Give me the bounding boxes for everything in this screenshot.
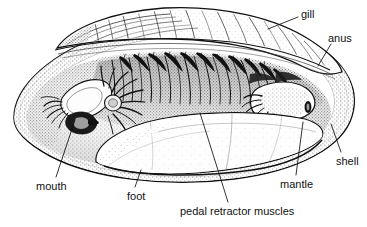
label-mantle: mantle xyxy=(280,178,313,190)
label-gill: gill xyxy=(301,8,314,20)
label-mouth: mouth xyxy=(36,180,67,192)
label-pedal-retractor-muscles: pedal retractor muscles xyxy=(180,205,294,217)
label-shell: shell xyxy=(336,155,359,167)
anatomy-illustration xyxy=(0,0,367,227)
label-anus: anus xyxy=(328,32,352,44)
bivalve-anatomy-figure: gill anus shell mantle pedal retractor m… xyxy=(0,0,367,227)
label-foot: foot xyxy=(127,190,145,202)
